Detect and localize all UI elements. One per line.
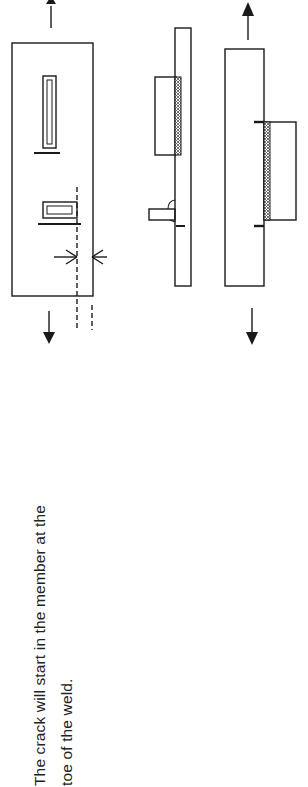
- transverse-attachment-inner: [47, 206, 72, 214]
- main-plate: [225, 49, 264, 286]
- tension-arrow-down-icon: [246, 308, 258, 345]
- caption-line-2: toe of the weld.: [53, 406, 80, 786]
- tension-arrow-up-icon: [46, 0, 56, 28]
- crack-width-arrow-right-icon: [92, 250, 107, 264]
- cover-attachment: [155, 77, 176, 155]
- caption-line-1: The crack will start in the member at th…: [26, 406, 53, 786]
- tension-arrow-down-icon: [43, 311, 55, 344]
- stub-fillet-weld: [168, 200, 175, 209]
- stub-attachment: [149, 209, 175, 220]
- figure-caption: The crack will start in the member at th…: [26, 406, 80, 786]
- longitudinal-attachment-inner: [47, 80, 52, 144]
- plate-side: [175, 28, 191, 286]
- lap-weld-hatch-strip: [264, 122, 270, 220]
- plan-view-panel: [12, 0, 107, 344]
- longitudinal-attachment-outer: [43, 76, 56, 148]
- side-view-lap-panel: [225, 2, 296, 345]
- tension-arrow-up-icon: [242, 2, 254, 40]
- side-view-attachments-panel: [149, 28, 191, 286]
- crack-width-arrow-left-icon: [54, 250, 77, 264]
- weld-hatch-strip: [175, 77, 181, 155]
